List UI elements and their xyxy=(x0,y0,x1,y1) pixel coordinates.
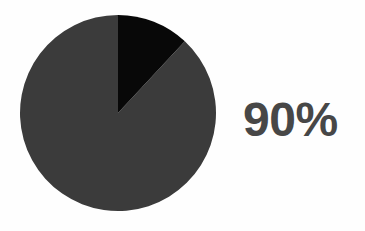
percentage-callout: 90% xyxy=(243,92,355,148)
pie-chart-svg xyxy=(18,12,218,215)
infographic-root: 90% xyxy=(0,0,365,231)
percentage-value-label: 90% xyxy=(243,96,338,144)
pie-chart xyxy=(18,12,218,215)
